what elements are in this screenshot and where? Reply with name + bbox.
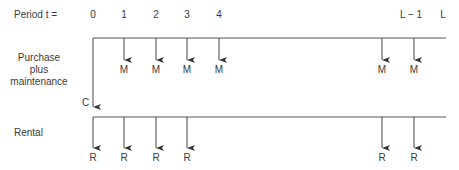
maintenance-label: M xyxy=(183,64,191,76)
rental-flow-label: R xyxy=(89,152,96,164)
maintenance-label: M xyxy=(120,64,128,76)
maintenance-label: M xyxy=(378,64,386,76)
purchase-timeline xyxy=(93,38,446,107)
rental-flow-label: R xyxy=(183,152,190,164)
initial-cost-label: C xyxy=(82,97,89,109)
rental-flow-label: R xyxy=(152,152,159,164)
cash-flow-diagram xyxy=(0,0,459,170)
maintenance-label: M xyxy=(152,64,160,76)
rental-timeline xyxy=(93,117,446,148)
maintenance-label: M xyxy=(410,64,418,76)
rental-flow-label: R xyxy=(378,152,385,164)
maintenance-label: M xyxy=(215,64,223,76)
rental-flow-label: R xyxy=(120,152,127,164)
rental-flow-label: R xyxy=(410,152,417,164)
